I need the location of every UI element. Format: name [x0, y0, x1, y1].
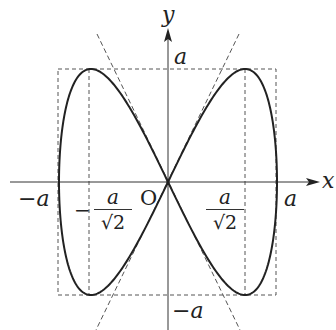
neg-sign: − — [74, 200, 91, 220]
x-tick-a-over-root2: a √2 — [206, 186, 244, 233]
x-axis-label: x — [322, 170, 334, 192]
x-tick-neg-a: −a — [18, 188, 50, 210]
x-tick-neg-a-over-root2: a √2 — [94, 186, 132, 233]
origin-label: O — [140, 188, 157, 209]
origin-point — [166, 180, 169, 183]
diagram-canvas: y x a −a −a a O − a √2 a √2 — [0, 0, 336, 330]
x-tick-a: a — [284, 188, 297, 210]
y-axis-label: y — [162, 4, 174, 26]
y-tick-neg-a: −a — [172, 300, 204, 322]
y-tick-a: a — [174, 46, 187, 68]
diagram-svg — [0, 0, 336, 330]
